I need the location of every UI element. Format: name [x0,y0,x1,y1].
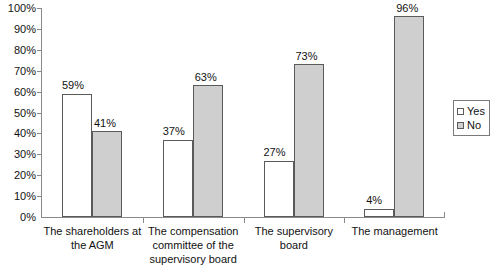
y-tick-label-60: 60% [0,87,36,98]
y-tick-label-20: 20% [0,170,36,181]
bar-no-supervisory-board[interactable] [294,64,324,217]
y-tick-label-40: 40% [0,128,36,139]
bar-value-yes-supervisory-board: 27% [264,147,286,158]
y-tick-label-50: 50% [0,108,36,119]
category-label-line: The compensation [143,224,244,238]
white-square-swatch-icon [457,108,464,115]
bar-yes-management[interactable] [364,209,394,217]
category-label-supervisory-board: The supervisory board [244,224,345,252]
bar-value-yes-compensation-committee: 37% [163,126,185,137]
y-tick-label-70: 70% [0,66,36,77]
y-tick-label-90: 90% [0,24,36,35]
gray-square-swatch-icon [457,122,464,129]
bar-chart: 100% 90% 80% 70% 60% 50% 40% 30% 20% 10%… [0,0,498,280]
bar-group-management: 4% 96% [344,8,445,217]
bar-yes-compensation-committee[interactable] [163,140,193,217]
bar-no-shareholders-at-the-agm[interactable] [92,131,122,217]
category-label-line: supervisory board [143,252,244,266]
y-tick-label-10: 10% [0,191,36,202]
y-axis-labels: 100% 90% 80% 70% 60% 50% 40% 30% 20% 10%… [0,8,36,217]
plot-area: 59% 41% 37% 63% 27% 73% 4% 96% [42,8,445,217]
category-label-line: committee of the [143,238,244,252]
category-label-line: The shareholders at [42,224,143,238]
legend-item-no[interactable]: No [457,118,485,132]
y-tick-label-100: 100% [0,3,36,14]
x-axis-category-labels: The shareholders at the AGM The compensa… [42,224,445,280]
legend-label-yes: Yes [467,106,485,117]
y-tick-label-80: 80% [0,45,36,56]
bar-value-yes-management: 4% [366,195,382,206]
bar-group-compensation-committee: 37% 63% [143,8,244,217]
category-label-line: The management [344,224,445,238]
x-axis-separator-tick-3 [344,218,345,223]
category-label-shareholders-at-the-agm: The shareholders at the AGM [42,224,143,252]
bar-value-no-management: 96% [396,3,418,14]
legend-item-yes[interactable]: Yes [457,104,485,118]
bar-no-management[interactable] [394,16,424,217]
bar-yes-supervisory-board[interactable] [264,161,294,217]
y-tick-label-0: 0% [0,212,36,223]
bar-value-yes-shareholders-at-the-agm: 59% [62,80,84,91]
y-tick-label-30: 30% [0,149,36,160]
bar-group-supervisory-board: 27% 73% [244,8,345,217]
bar-value-no-compensation-committee: 63% [195,72,217,83]
x-axis-separator-tick-2 [244,218,245,223]
bar-group-shareholders-at-the-agm: 59% 41% [42,8,143,217]
category-label-management: The management [344,224,445,238]
bar-value-no-supervisory-board: 73% [296,51,318,62]
category-label-line: the AGM [42,238,143,252]
x-axis-separator-tick-1 [143,218,144,223]
bar-no-compensation-committee[interactable] [193,85,223,217]
x-axis-end-cap [444,212,445,218]
bar-value-no-shareholders-at-the-agm: 41% [94,118,116,129]
bar-yes-shareholders-at-the-agm[interactable] [62,94,92,217]
category-label-line: board [244,238,345,252]
legend-label-no: No [467,120,481,131]
category-label-compensation-committee: The compensation committee of the superv… [143,224,244,266]
category-label-line: The supervisory [244,224,345,238]
chart-legend: Yes No [453,100,490,136]
